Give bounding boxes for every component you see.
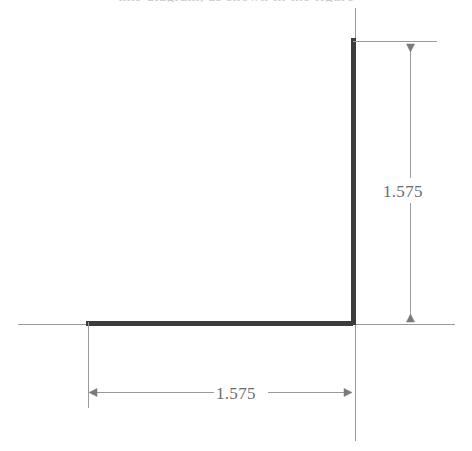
horizontal-dim-right-arrow-icon: [344, 389, 352, 397]
horizontal-dimension-label: 1.575: [216, 384, 256, 403]
technical-drawing-canvas: this diagram, as shown in the figure 1.5…: [0, 0, 472, 451]
vertical-dim-down-arrow-icon: [407, 44, 415, 52]
horizontal-dim-left-arrow-icon: [89, 389, 97, 397]
drawing-svg: 1.575 1.575: [0, 0, 472, 451]
vertical-dimension-label: 1.575: [383, 182, 423, 201]
vertical-dim-up-arrow-icon: [407, 314, 415, 322]
